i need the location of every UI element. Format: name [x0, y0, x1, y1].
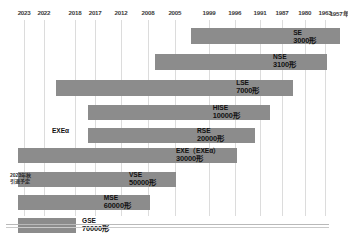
divider-line-bottom	[6, 227, 329, 228]
bar-label-lse-7000: LSE 7000形	[236, 79, 259, 96]
bar-label-name-rse: RSE	[197, 127, 211, 134]
year-tick-2022: 2022	[37, 9, 50, 16]
year-tick-1996: 1996	[228, 9, 241, 16]
bar-label-model-rse: 20000形	[197, 135, 224, 144]
year-tick-2008: 2008	[142, 9, 155, 16]
bar-row-hise-10000: HISE 10000形	[0, 105, 335, 123]
bar-nse-3100[interactable]	[155, 54, 327, 70]
bar-label-name-gse: GSE	[82, 217, 96, 224]
year-tick-1980: 1980	[298, 9, 311, 16]
bar-label-name-nse: NSE	[273, 53, 287, 60]
bottom-divider	[6, 224, 329, 228]
bar-row-mse-60000: MSE 60000形	[0, 195, 335, 213]
bar-label-model-exe: 30000形	[176, 155, 220, 164]
bar-label-name-mse: MSE	[104, 194, 118, 201]
year-tick-1957: 1957年	[330, 9, 348, 18]
bar-label-exe-30000: EXE（EXEα） 30000形	[176, 147, 220, 164]
bar-label-name-vse: VSE	[129, 171, 142, 178]
bar-se-3000[interactable]	[191, 28, 340, 44]
divider-line-top	[6, 224, 329, 225]
year-axis: 2023 2022 2018 2017 2012 2008 2005 1999 …	[0, 0, 335, 22]
bar-label-model-vse: 50000形	[129, 179, 156, 188]
bars-plot: SE 3000形 NSE 3100形 LSE 7000形 HISE	[0, 20, 335, 216]
year-tick-1999: 1999	[203, 9, 216, 16]
bar-label-model-lse: 7000形	[236, 87, 259, 96]
bar-row-vse-50000: 2023年秋 引退予定 VSE 50000形	[0, 172, 335, 190]
side-label-exe-alpha: EXEα	[52, 127, 69, 134]
bar-label-name-se: SE	[293, 29, 302, 36]
bar-row-lse-7000: LSE 7000形	[0, 80, 335, 98]
bar-label-model-se: 3000形	[293, 37, 316, 46]
year-tick-1987: 1987	[276, 9, 289, 16]
bar-label-name-lse: LSE	[236, 79, 249, 86]
bar-hise-10000[interactable]	[88, 105, 270, 120]
bar-label-model-hise: 10000形	[213, 112, 240, 121]
bar-label-model-mse: 60000形	[104, 202, 131, 211]
bar-label-mse-60000: MSE 60000形	[104, 194, 131, 211]
note-line-1: 2023年秋	[10, 172, 31, 178]
note-line-2: 引退予定	[10, 178, 31, 184]
bar-label-rse-20000: RSE 20000形	[197, 127, 224, 144]
year-tick-2018: 2018	[69, 9, 82, 16]
bar-label-se-3000: SE 3000形	[293, 29, 316, 46]
bar-row-se-3000: SE 3000形	[0, 28, 335, 46]
year-tick-2005: 2005	[168, 9, 181, 16]
note-vse-retirement: 2023年秋 引退予定	[10, 172, 31, 185]
bar-row-rse-20000: RSE 20000形	[0, 128, 335, 146]
bar-label-name-exe: EXE（EXEα）	[176, 147, 220, 154]
year-tick-2023: 2023	[18, 9, 31, 16]
bar-label-model-nse: 3100形	[273, 61, 296, 70]
year-tick-2017: 2017	[89, 9, 102, 16]
year-tick-1991: 1991	[253, 9, 266, 16]
bar-label-nse-3100: NSE 3100形	[273, 53, 296, 70]
bar-rse-20000[interactable]	[88, 128, 255, 143]
bar-label-hise-10000: HISE 10000形	[213, 104, 240, 121]
bar-row-exe-30000: EXE（EXEα） 30000形	[0, 148, 335, 166]
bar-row-nse-3100: NSE 3100形	[0, 54, 335, 72]
bar-label-name-hise: HISE	[213, 104, 228, 111]
bar-label-vse-50000: VSE 50000形	[129, 171, 156, 188]
year-tick-2012: 2012	[114, 9, 127, 16]
